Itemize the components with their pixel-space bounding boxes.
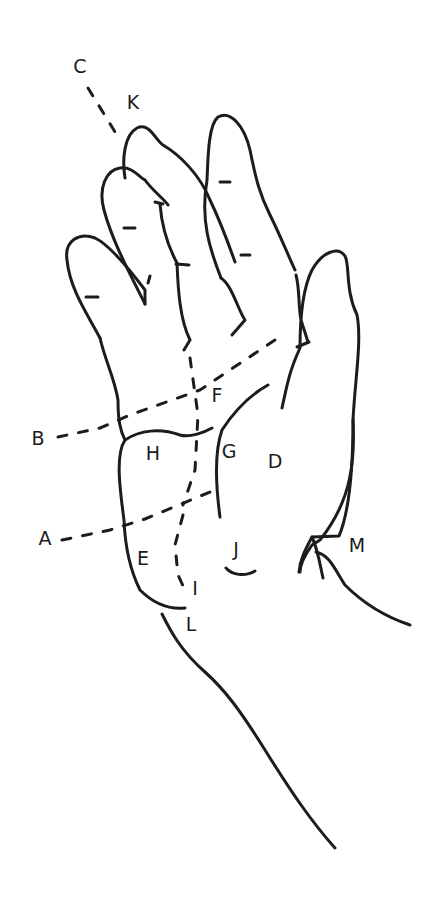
index-finger-line (221, 278, 245, 335)
label-g: G (222, 442, 237, 461)
dashed-line-c (88, 88, 120, 140)
middle-finger-outline (124, 127, 235, 262)
label-a: A (39, 529, 52, 548)
label-h: H (146, 444, 160, 463)
label-l: L (186, 615, 197, 634)
ring-finger-crease-2 (148, 276, 150, 283)
label-e: E (137, 549, 149, 568)
label-m: M (349, 536, 365, 555)
dashed-line-i (175, 515, 185, 590)
little-finger-outline (67, 236, 145, 338)
label-j: J (233, 540, 239, 559)
label-f: F (212, 386, 223, 405)
label-b: B (31, 429, 44, 448)
label-d: D (268, 452, 283, 471)
palm-crease-h (125, 428, 212, 440)
middle-finger-line (160, 204, 190, 350)
ring-finger-outline (102, 168, 168, 304)
thumb-outline-lower (300, 420, 353, 572)
thumb-outline (282, 251, 359, 537)
label-i: I (192, 579, 198, 598)
forearm-outline (162, 614, 335, 848)
middle-finger-crease-2 (176, 264, 189, 265)
dashed-line-f-vertical (183, 358, 198, 505)
palm-crease-j (226, 568, 255, 575)
dashed-line-b (58, 340, 275, 437)
hand-diagram: C K B A F H G D E I J L M (0, 0, 447, 901)
dashed-line-a (62, 492, 210, 540)
label-k: K (127, 93, 139, 112)
label-c: C (73, 57, 86, 76)
